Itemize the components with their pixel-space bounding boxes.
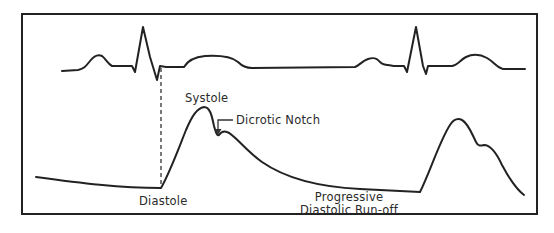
ecg-trace <box>62 27 525 80</box>
label-dicrotic-notch: Dicrotic Notch <box>236 114 320 127</box>
label-diastole: Diastole <box>139 195 188 208</box>
label-systole: Systole <box>185 92 228 105</box>
label-progressive-diastolic-runoff: Progressive Diastolic Run-off <box>288 191 410 217</box>
ecg-arterial-pressure-diagram: Systole Dicrotic Notch Diastole Progress… <box>0 0 554 233</box>
label-runoff-line2: Diastolic Run-off <box>288 204 410 217</box>
